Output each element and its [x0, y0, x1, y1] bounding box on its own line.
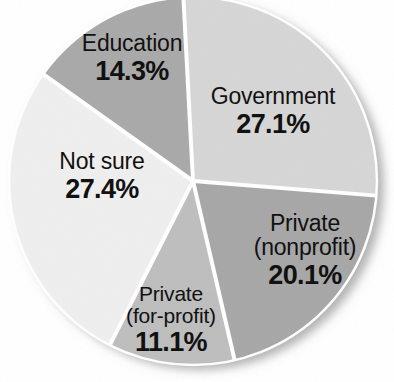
paper-grain-overlay: [0, 0, 394, 382]
pie-chart-canvas: [0, 0, 394, 382]
pie-chart: Government 27.1% Private (nonprofit) 20.…: [0, 0, 394, 382]
